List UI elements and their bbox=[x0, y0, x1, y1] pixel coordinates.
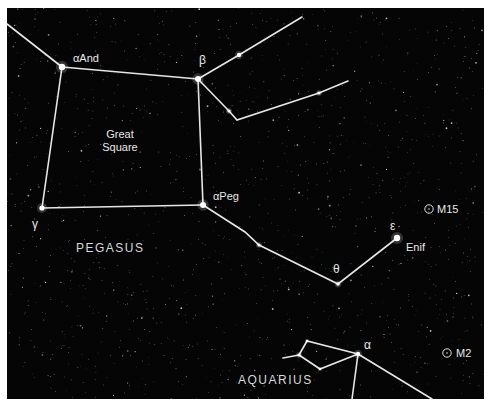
background-star bbox=[277, 290, 278, 291]
background-star bbox=[288, 130, 289, 131]
background-star bbox=[198, 8, 200, 10]
background-star bbox=[124, 20, 125, 21]
background-star bbox=[178, 381, 179, 382]
background-star bbox=[68, 151, 69, 152]
background-star bbox=[455, 281, 456, 282]
background-star bbox=[200, 95, 201, 96]
background-star bbox=[374, 20, 375, 21]
background-star bbox=[365, 143, 366, 144]
background-star bbox=[344, 96, 345, 97]
background-star bbox=[413, 71, 414, 72]
background-star bbox=[451, 30, 452, 31]
background-star bbox=[387, 151, 388, 152]
background-star bbox=[102, 280, 103, 281]
background-star bbox=[64, 102, 65, 103]
background-star bbox=[362, 310, 363, 311]
background-star bbox=[437, 318, 438, 319]
background-star bbox=[407, 52, 408, 53]
background-star bbox=[60, 192, 61, 193]
background-star bbox=[281, 283, 282, 284]
background-star bbox=[277, 225, 278, 226]
background-star bbox=[355, 233, 356, 234]
background-star bbox=[84, 239, 85, 240]
background-star bbox=[440, 252, 441, 253]
background-star bbox=[113, 395, 114, 396]
background-star bbox=[47, 130, 48, 131]
background-star bbox=[448, 230, 449, 231]
background-star bbox=[57, 118, 58, 119]
background-star bbox=[308, 160, 309, 161]
background-star bbox=[240, 101, 241, 102]
background-star bbox=[236, 23, 237, 24]
background-star bbox=[466, 56, 467, 57]
background-star bbox=[207, 175, 208, 176]
background-star bbox=[362, 202, 363, 203]
background-star bbox=[260, 13, 261, 14]
background-star bbox=[49, 266, 50, 267]
background-star bbox=[19, 337, 20, 338]
background-star bbox=[113, 290, 114, 291]
background-star bbox=[407, 131, 408, 132]
background-star bbox=[17, 115, 18, 116]
background-star bbox=[329, 136, 330, 137]
background-star bbox=[158, 152, 159, 153]
background-star bbox=[261, 263, 262, 264]
background-star bbox=[218, 29, 219, 30]
background-star bbox=[24, 201, 25, 202]
background-star bbox=[183, 188, 184, 189]
background-star bbox=[332, 226, 333, 227]
background-star bbox=[135, 351, 136, 352]
background-star bbox=[11, 294, 12, 295]
background-star bbox=[323, 115, 324, 116]
background-star bbox=[388, 135, 389, 136]
background-star bbox=[289, 319, 290, 320]
background-star bbox=[420, 183, 421, 184]
background-star bbox=[171, 398, 172, 399]
background-star bbox=[147, 290, 148, 291]
background-star bbox=[335, 227, 336, 228]
background-star bbox=[433, 201, 434, 202]
background-star bbox=[341, 135, 342, 136]
background-star bbox=[244, 272, 245, 273]
background-star bbox=[188, 94, 189, 95]
background-star bbox=[106, 118, 107, 119]
background-star bbox=[198, 221, 199, 222]
background-star bbox=[182, 250, 183, 251]
background-star bbox=[267, 98, 268, 99]
background-star bbox=[23, 9, 24, 10]
background-star bbox=[303, 18, 304, 19]
background-star bbox=[215, 221, 216, 222]
background-star bbox=[215, 349, 216, 350]
background-star bbox=[297, 78, 298, 79]
background-star bbox=[404, 101, 405, 102]
background-star bbox=[142, 378, 143, 379]
background-star bbox=[208, 392, 209, 393]
background-star bbox=[458, 293, 459, 294]
background-star bbox=[410, 364, 411, 365]
star-star-b1 bbox=[237, 53, 241, 57]
background-star bbox=[416, 140, 417, 141]
background-star bbox=[208, 111, 209, 112]
background-star bbox=[456, 293, 457, 294]
background-star bbox=[141, 132, 142, 133]
background-star bbox=[417, 38, 418, 39]
background-star bbox=[122, 201, 123, 202]
background-star bbox=[11, 193, 12, 194]
background-star bbox=[389, 131, 390, 132]
background-star bbox=[192, 346, 193, 347]
background-star bbox=[471, 304, 472, 305]
background-star bbox=[195, 9, 196, 10]
background-star bbox=[25, 312, 26, 313]
background-star bbox=[84, 195, 85, 196]
background-star bbox=[185, 292, 186, 293]
background-star bbox=[342, 282, 343, 283]
background-star bbox=[327, 162, 328, 163]
background-star bbox=[228, 377, 229, 378]
background-star bbox=[466, 218, 467, 219]
background-star bbox=[45, 282, 46, 283]
background-star bbox=[24, 240, 25, 241]
background-star bbox=[274, 199, 275, 200]
background-star bbox=[439, 69, 440, 70]
star-star-b2 bbox=[227, 109, 230, 112]
background-star bbox=[34, 157, 35, 158]
